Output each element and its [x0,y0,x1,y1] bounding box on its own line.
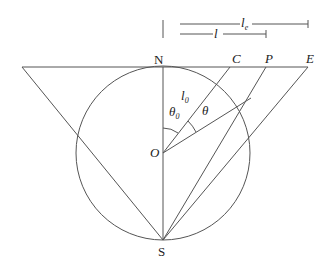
angle-arc-theta [188,121,196,132]
label-n: N [154,52,164,67]
geometry-diagram: N S O C P E l le l0 θ0 θ [0,0,331,270]
label-o: O [150,145,160,160]
label-theta: θ [202,103,209,118]
line-s-e [163,67,308,240]
label-c: C [232,51,241,66]
label-s: S [158,244,165,259]
angle-arc-theta0 [163,128,178,133]
label-theta0-sub: 0 [175,112,179,121]
label-p: P [264,51,273,66]
label-l0-sub: 0 [185,96,189,105]
label-l: l [214,26,218,41]
label-e: E [305,51,314,66]
label-le: le [241,15,249,32]
line-s-p [163,67,266,240]
label-theta0: θ0 [169,104,179,121]
line-left-to-s [22,67,163,240]
label-le-sub: e [245,23,249,32]
label-l0: l0 [181,88,189,105]
